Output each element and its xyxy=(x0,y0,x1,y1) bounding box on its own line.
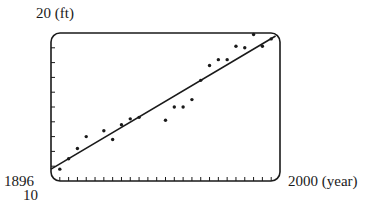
data-point xyxy=(199,79,202,82)
data-point xyxy=(76,147,79,150)
data-point xyxy=(234,45,237,48)
data-point xyxy=(129,117,132,120)
data-point xyxy=(137,116,140,119)
data-point xyxy=(67,157,70,160)
data-point xyxy=(190,98,193,101)
data-point xyxy=(261,45,264,48)
scatter-plot xyxy=(0,0,365,205)
data-point xyxy=(173,105,176,108)
data-point xyxy=(85,135,88,138)
data-point xyxy=(269,37,272,40)
data-point xyxy=(111,138,114,141)
data-point xyxy=(181,105,184,108)
data-point xyxy=(243,46,246,49)
data-point xyxy=(120,123,123,126)
regression-line xyxy=(51,36,276,169)
data-point xyxy=(58,167,61,170)
data-point xyxy=(217,58,220,61)
data-point xyxy=(208,64,211,67)
data-point xyxy=(225,58,228,61)
data-point xyxy=(164,119,167,122)
data-point xyxy=(102,129,105,132)
data-point xyxy=(252,33,255,36)
plot-frame xyxy=(51,33,280,181)
